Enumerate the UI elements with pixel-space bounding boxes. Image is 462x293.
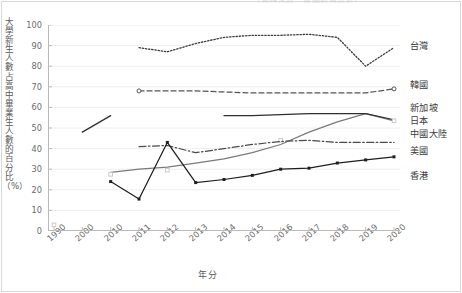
legend-item-taiwan[interactable]: 台灣 [410,38,429,52]
y-tick-20: 20 [18,185,42,195]
y-tick-60: 60 [18,102,42,112]
line-韓國 [139,89,394,93]
point-韓國-2011 [137,89,141,93]
legend-item-japan[interactable]: 日本 [410,113,429,127]
point-香港-2015 [251,174,254,177]
y-tick-30: 30 [18,164,42,174]
series-美國 [139,140,394,152]
point-香港-2018 [336,162,339,165]
point-中國大陸-2012 [166,168,170,172]
point-中國大陸-2010 [109,173,113,177]
legend-item-hongkong[interactable]: 香港 [410,168,429,182]
y-tick-40: 40 [18,144,42,154]
y-tick-80: 80 [18,61,42,71]
series-canvas [48,25,400,231]
y-tick-100: 100 [18,20,42,30]
line-台灣 [139,34,394,66]
point-中國大陸-1990 [52,223,56,227]
y-tick-70: 70 [18,82,42,92]
line-新加坡 [111,114,394,173]
point-韓國-2020 [392,87,396,91]
point-中國大陸-2020 [392,119,396,123]
y-tick-0: 0 [18,226,42,236]
series-台灣 [139,34,394,66]
legend-item-singapore[interactable]: 新加坡 [410,100,438,114]
legend-item-korea[interactable]: 韓國 [410,77,429,91]
point-香港-2011 [138,198,141,201]
y-tick-10: 10 [18,205,42,215]
series-香港 [109,141,395,201]
point-香港-2013 [194,181,197,184]
point-香港-2014 [223,178,226,181]
legend-item-china[interactable]: 中國大陸 [410,126,447,140]
plot-area [48,25,400,231]
y-axis-title: 大學新生人數占高中畢業生人數的百分比（%） [2,18,16,268]
line-日本 [224,114,394,120]
point-香港-2010 [109,180,112,183]
series-韓國 [137,87,396,93]
chart-figure: （資料來源：各國教育統計） 大學新生人數占高中畢業生人數的百分比（%） 年分 1… [0,0,462,293]
point-香港-2019 [364,158,367,161]
point-香港-2016 [279,168,282,171]
series-日本 [82,114,394,133]
point-香港-2017 [308,167,311,170]
clipped-title-text: （資料來源：各國教育統計） [252,0,412,3]
y-tick-90: 90 [18,41,42,51]
y-tick-50: 50 [18,123,42,133]
line-日本 [82,116,110,132]
series-新加坡 [111,114,394,173]
point-香港-2020 [393,155,396,158]
x-axis-title: 年分 [198,268,218,281]
line-香港 [111,142,394,199]
legend-item-usa[interactable]: 美國 [410,143,429,157]
point-香港-2012 [166,141,169,144]
line-美國 [139,140,394,152]
